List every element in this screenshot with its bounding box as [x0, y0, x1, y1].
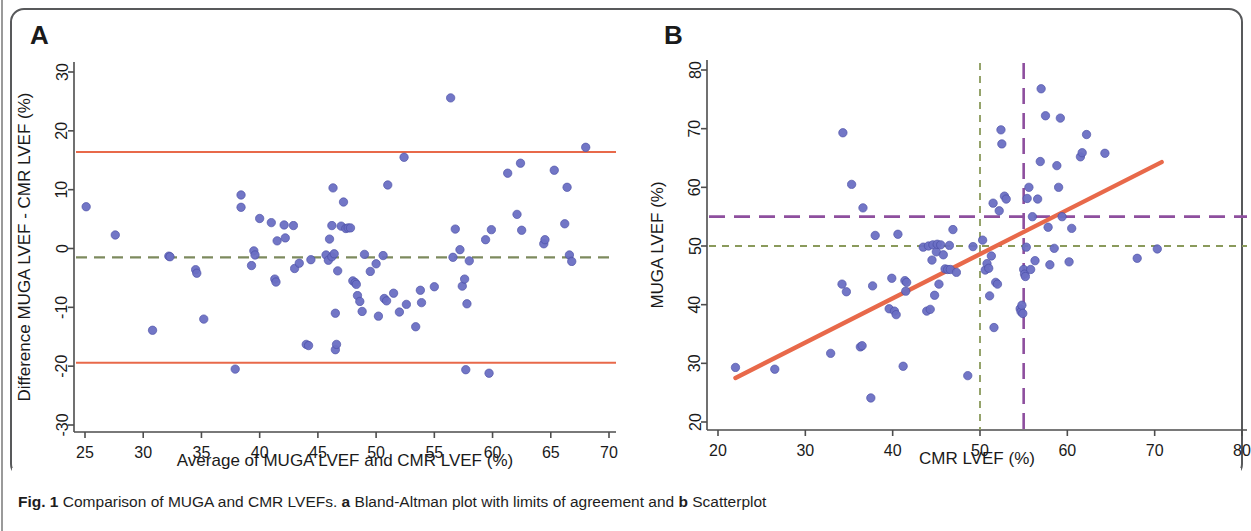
data-point [1033, 195, 1041, 203]
data-point [1019, 309, 1027, 317]
data-point [1078, 149, 1086, 157]
data-point [990, 323, 998, 331]
data-point [329, 184, 337, 192]
data-point [847, 180, 855, 188]
data-point [1037, 85, 1045, 93]
data-point [304, 341, 312, 349]
data-point [894, 230, 902, 238]
data-point [550, 166, 558, 174]
data-point [561, 220, 569, 228]
data-point [1050, 244, 1058, 252]
data-point [82, 203, 90, 211]
panel-b-svg: 2030405060708020304050607080CMR LVEF (%)… [625, 0, 1251, 485]
caption-sub-b-text: Scatterplot [692, 493, 766, 510]
data-point [200, 315, 208, 323]
data-point [1023, 194, 1031, 202]
data-point [111, 231, 119, 239]
data-point [295, 259, 303, 267]
panel-a-axis-labels: 25303540455055606570-30-20-100102030Aver… [15, 63, 618, 470]
data-point [1101, 149, 1109, 157]
data-point [1036, 157, 1044, 165]
data-point [541, 235, 549, 243]
x-tick-label: 60 [1058, 442, 1076, 459]
data-point [503, 169, 511, 177]
data-point [517, 226, 525, 234]
data-point [487, 225, 495, 233]
data-point [995, 207, 1003, 215]
data-point [481, 235, 489, 243]
data-point [462, 366, 470, 374]
data-point [993, 280, 1001, 288]
data-point [1031, 256, 1039, 264]
data-point [952, 268, 960, 276]
data-point [969, 242, 977, 250]
panel-b-axis-labels: 2030405060708020304050607080CMR LVEF (%)… [648, 61, 1251, 468]
data-point [513, 210, 521, 218]
data-point [731, 363, 739, 371]
y-tick-label: 30 [54, 63, 71, 81]
data-point [449, 253, 457, 261]
data-point [231, 365, 239, 373]
data-point [945, 241, 953, 249]
data-point [332, 340, 340, 348]
data-point [1002, 195, 1010, 203]
data-point [838, 280, 846, 288]
data-point [280, 221, 288, 229]
data-point [379, 251, 387, 259]
y-tick-label: 40 [687, 296, 704, 314]
data-point [949, 225, 957, 233]
data-point [859, 204, 867, 212]
data-point [989, 199, 997, 207]
data-point [451, 225, 459, 233]
data-point [997, 126, 1005, 134]
x-tick-label: 80 [1233, 442, 1251, 459]
data-point [516, 159, 524, 167]
data-point [892, 310, 900, 318]
figure-caption: Fig. 1 Comparison of MUGA and CMR LVEFs.… [18, 492, 1238, 511]
data-point [568, 257, 576, 265]
data-point [1044, 223, 1052, 231]
data-point [460, 275, 468, 283]
data-point [1065, 258, 1073, 266]
data-point [289, 221, 297, 229]
caption-main-text: Comparison of MUGA and CMR LVEFs. [63, 493, 338, 510]
data-point [485, 369, 493, 377]
y-tick-label: 10 [54, 181, 71, 199]
data-point [247, 261, 255, 269]
data-point [307, 255, 315, 263]
data-point [237, 191, 245, 199]
data-point [166, 253, 174, 261]
data-point [985, 264, 993, 272]
data-point [1133, 254, 1141, 262]
data-point [267, 218, 275, 226]
x-tick-label: 25 [76, 444, 94, 461]
data-point [339, 198, 347, 206]
data-point [416, 286, 424, 294]
data-point [382, 297, 390, 305]
y-tick-label: 20 [54, 122, 71, 140]
data-point [1026, 265, 1034, 273]
data-point [902, 278, 910, 286]
data-point [987, 252, 995, 260]
caption-sub-b-label: b [679, 493, 688, 510]
data-point [1022, 243, 1030, 251]
data-point [374, 312, 382, 320]
data-point [148, 326, 156, 334]
y-tick-label: 20 [687, 413, 704, 431]
y-tick-label: 80 [687, 61, 704, 79]
data-point [366, 267, 374, 275]
panel-a-data-points [82, 94, 590, 378]
x-tick-label: 30 [134, 444, 152, 461]
data-point [826, 349, 834, 357]
x-axis-title: CMR LVEF (%) [919, 449, 1035, 468]
y-tick-label: -30 [54, 413, 71, 436]
data-point [1056, 114, 1064, 122]
data-point [937, 241, 945, 249]
data-point [858, 342, 866, 350]
y-tick-label: 50 [687, 237, 704, 255]
data-point [868, 282, 876, 290]
data-point [463, 300, 471, 308]
y-tick-label: 70 [687, 120, 704, 138]
data-point [456, 245, 464, 253]
data-point [871, 231, 879, 239]
